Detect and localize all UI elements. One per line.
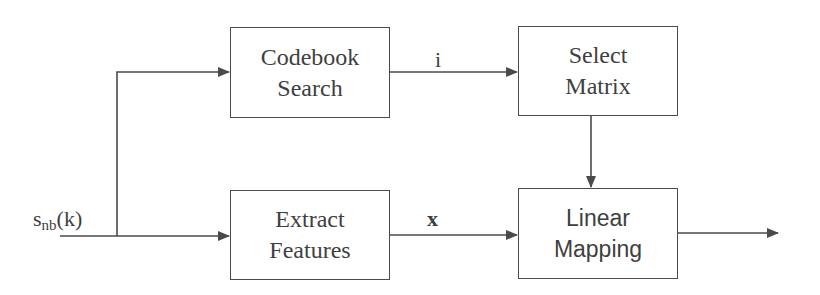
- index-label: i: [435, 49, 441, 71]
- connector-layer: [0, 0, 820, 295]
- block-label-line2: Matrix: [565, 71, 630, 102]
- extract-features-block: Extract Features: [230, 190, 390, 280]
- block-label-line2: Mapping: [554, 234, 642, 265]
- branch-to-codebook: [117, 72, 229, 236]
- features-label: x: [427, 208, 438, 230]
- block-label-line2: Search: [277, 73, 342, 104]
- input-signal-label: snb(k): [33, 208, 82, 236]
- select-matrix-block: Select Matrix: [518, 26, 678, 116]
- block-label-line1: Linear: [566, 203, 630, 234]
- linear-mapping-block: Linear Mapping: [518, 188, 678, 279]
- block-label-line1: Select: [569, 40, 628, 71]
- codebook-search-block: Codebook Search: [230, 27, 390, 118]
- block-label-line1: Codebook: [261, 42, 360, 73]
- block-label-line2: Features: [269, 235, 350, 266]
- block-label-line1: Extract: [275, 204, 344, 235]
